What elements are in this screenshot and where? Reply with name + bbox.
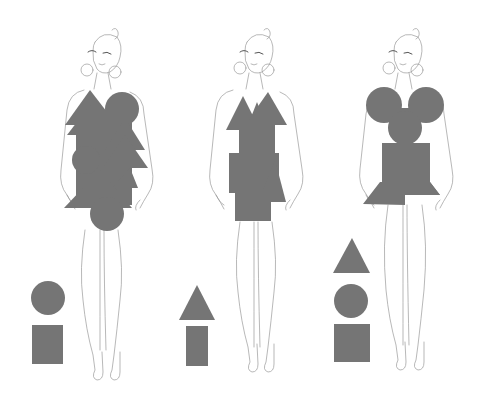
dress-triangle-right	[245, 92, 287, 125]
dress-circle-center	[388, 111, 422, 145]
legend-rectangle	[334, 324, 370, 362]
legend-triangle	[333, 238, 370, 273]
legend-3	[333, 238, 370, 362]
legend-circle	[31, 281, 65, 315]
model-3-dress	[363, 87, 444, 205]
dress-circle-hip	[72, 146, 100, 174]
dress-rect-waist	[382, 143, 430, 183]
dress-bodice	[239, 125, 275, 155]
legend-rectangle	[186, 326, 208, 366]
legend-triangle	[179, 285, 215, 320]
legend-circle	[334, 284, 368, 318]
dress-skirt-right	[405, 182, 440, 195]
illustration-canvas	[0, 0, 482, 399]
model-2	[210, 28, 303, 372]
model-2-dress	[226, 92, 287, 221]
model-3	[360, 28, 453, 370]
model-1	[61, 28, 153, 380]
dress-circle-hem	[90, 197, 124, 231]
legend-2	[179, 285, 215, 366]
fashion-illustration	[0, 0, 482, 399]
model-1-dress	[64, 90, 148, 231]
legend-rectangle	[32, 325, 63, 364]
dress-rect-skirt	[235, 190, 271, 221]
legend-1	[31, 281, 65, 364]
